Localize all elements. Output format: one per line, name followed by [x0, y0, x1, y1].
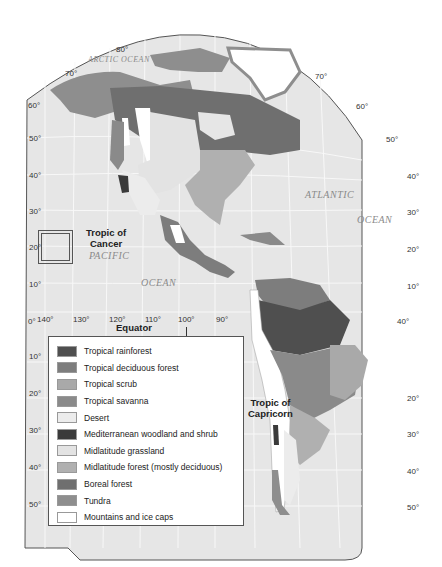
lat-label-left: 10°: [29, 352, 41, 361]
ocean-label-atlantic: ATLANTIC: [305, 189, 354, 200]
lat-label-top-70-left: 70°: [65, 69, 77, 78]
lon-label: 100°: [178, 315, 195, 324]
legend-item-tropical-scrub: Tropical scrub: [57, 376, 243, 393]
legend-label: Mountains and ice caps: [84, 512, 173, 522]
legend-item-tundra: Tundra: [57, 492, 243, 509]
lat-label-left: 20°: [29, 243, 41, 252]
legend-swatch: [57, 512, 77, 523]
tropic-of-cancer-label: Tropic ofCancer: [86, 227, 126, 249]
legend-label: Desert: [84, 413, 109, 423]
ocean-label-pacific-2: OCEAN: [141, 277, 176, 288]
lat-label-right: 30°: [407, 208, 419, 217]
legend-item-tropical-rainforest: Tropical rainforest: [57, 343, 243, 360]
legend-swatch: [57, 445, 77, 456]
legend-swatch: [57, 396, 77, 407]
legend-item-midlatitude-forest: Midlatitude forest (mostly deciduous): [57, 459, 243, 476]
hawaii-inset: [38, 230, 73, 264]
lat-label-left: 50°: [29, 500, 41, 509]
lon-label: 120°: [109, 315, 126, 324]
legend: Tropical rainforest Tropical deciduous f…: [48, 336, 244, 526]
ocean-label-arctic: ARCTIC OCEAN: [88, 55, 150, 64]
lon-label: 130°: [73, 315, 90, 324]
legend-label: Tropical deciduous forest: [84, 363, 179, 373]
legend-label: Tropical scrub: [84, 379, 137, 389]
legend-label: Midlatitude grassland: [84, 446, 164, 456]
lat-label-left: 50°: [29, 134, 41, 143]
lat-label-left: 20°: [29, 389, 41, 398]
lat-label-top-70-right: 70°: [315, 72, 327, 81]
legend-swatch: [57, 429, 77, 440]
ocean-label-pacific: PACIFIC: [89, 250, 130, 261]
lat-label-right: 30°: [407, 430, 419, 439]
legend-label: Midlatitude forest (mostly deciduous): [84, 462, 222, 472]
legend-item-mountains-ice-caps: Mountains and ice caps: [57, 509, 243, 526]
ocean-label-atlantic-2: OCEAN: [357, 214, 392, 225]
lat-label-top-60-right: 60°: [356, 102, 368, 111]
lat-label-left: 30°: [29, 426, 41, 435]
lat-label-right: 20°: [407, 394, 419, 403]
tropic-of-capricorn-label: Tropic ofCapricorn: [248, 397, 293, 419]
legend-label: Tundra: [84, 496, 111, 506]
lat-label-right: 20°: [407, 245, 419, 254]
lat-label-right: 40°: [397, 317, 409, 326]
lat-label-right: 10°: [407, 282, 419, 291]
lat-label-left: 30°: [29, 207, 41, 216]
lat-label-top-80: 80°: [116, 45, 128, 54]
lat-label-right: 50°: [386, 135, 398, 144]
biome-map: ARCTIC OCEAN ATLANTIC OCEAN PACIFIC OCEA…: [0, 0, 442, 567]
legend-swatch: [57, 379, 77, 390]
region-mediterranean-chile: [273, 425, 279, 445]
lat-label-right: 40°: [407, 172, 419, 181]
legend-swatch: [57, 462, 77, 473]
legend-label: Mediterranean woodland and shrub: [84, 429, 218, 439]
lat-label-right: 50°: [407, 503, 419, 512]
lat-label-right: 40°: [407, 467, 419, 476]
lon-label: 140°: [37, 315, 54, 324]
legend-label: Tropical rainforest: [84, 346, 152, 356]
legend-swatch: [57, 412, 77, 423]
legend-label: Boreal forest: [84, 479, 132, 489]
lat-label-left: 40°: [29, 171, 41, 180]
legend-item-mediterranean: Mediterranean woodland and shrub: [57, 426, 243, 443]
legend-swatch: [57, 346, 77, 357]
legend-item-tropical-deciduous-forest: Tropical deciduous forest: [57, 360, 243, 377]
lat-label-left: 0°: [28, 317, 36, 326]
lat-label-left: 10°: [29, 280, 41, 289]
region-pacific-forest: [110, 120, 124, 170]
legend-swatch: [57, 362, 77, 373]
legend-swatch: [57, 479, 77, 490]
legend-item-boreal-forest: Boreal forest: [57, 476, 243, 493]
legend-item-midlatitude-grassland: Midlatitude grassland: [57, 443, 243, 460]
lat-label-left: 40°: [29, 463, 41, 472]
lat-label-left: 60°: [28, 101, 40, 110]
legend-item-tropical-savanna: Tropical savanna: [57, 393, 243, 410]
legend-swatch: [57, 495, 77, 506]
lon-label: 110°: [145, 315, 161, 324]
legend-label: Tropical savanna: [84, 396, 148, 406]
legend-item-desert: Desert: [57, 409, 243, 426]
lon-label: 90°: [216, 315, 228, 324]
